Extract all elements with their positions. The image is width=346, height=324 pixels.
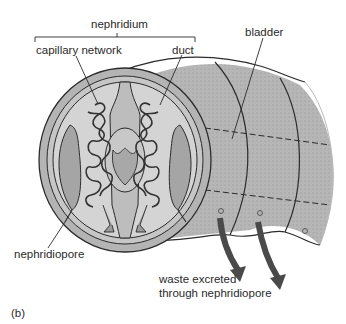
label-waste-line1: waste excreted — [159, 273, 236, 286]
label-nephridium: nephridium — [91, 18, 148, 31]
label-capillary-network: capillary network — [36, 44, 122, 57]
cross-section — [39, 68, 211, 252]
label-nephridiopore: nephridiopore — [14, 248, 84, 261]
label-duct: duct — [172, 44, 194, 57]
label-bladder: bladder — [245, 26, 283, 39]
panel-label: (b) — [11, 307, 25, 320]
label-waste-line2: through nephridiopore — [159, 287, 272, 300]
